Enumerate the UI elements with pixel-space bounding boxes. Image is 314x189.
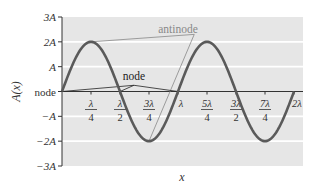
- x-tick-denominator: 4: [262, 112, 268, 123]
- standing-wave-chart: 3A2AAnode−A−2A−3A λ4λ23λ4λ5λ43λ27λ42λ an…: [0, 0, 314, 189]
- x-tick-denominator: 4: [204, 112, 210, 123]
- y-tick-label: 3A: [43, 11, 57, 23]
- x-tick-denominator: 2: [233, 112, 238, 123]
- y-tick-label: node: [35, 86, 57, 98]
- y-tick-label: 2A: [44, 36, 57, 48]
- x-tick-numerator: 5λ: [202, 98, 212, 109]
- y-tick-label: −3A: [36, 160, 56, 172]
- x-axis-title: x: [178, 170, 185, 184]
- y-tick-label: −2A: [36, 135, 56, 147]
- annotation-label-node: node: [123, 70, 145, 82]
- x-tick-label: λ: [178, 98, 184, 109]
- x-tick-numerator: λ: [88, 98, 94, 109]
- x-tick-label: 2λ: [292, 98, 302, 109]
- y-axis-title: A(x): [9, 81, 23, 103]
- annotation-label-antinode: antinode: [158, 23, 198, 35]
- x-tick-denominator: 2: [117, 112, 122, 123]
- y-tick-label: −A: [42, 110, 56, 122]
- y-axis: 3A2AAnode−A−2A−3A: [35, 11, 62, 172]
- x-tick-numerator: 3λ: [143, 98, 154, 109]
- x-tick-numerator: 7λ: [260, 98, 270, 109]
- x-tick-denominator: 4: [88, 112, 94, 123]
- x-tick-denominator: 4: [146, 112, 152, 123]
- y-tick-label: A: [48, 61, 56, 73]
